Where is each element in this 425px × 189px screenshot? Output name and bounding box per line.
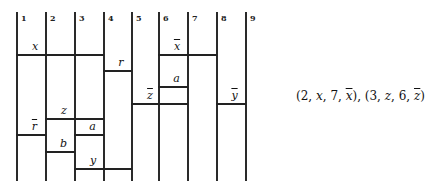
column-number: 9	[250, 13, 256, 23]
segment-a	[74, 134, 104, 136]
column-line-2	[45, 12, 47, 181]
segment-label: y	[78, 155, 108, 166]
column-number: 3	[79, 13, 85, 23]
segment-label: y	[220, 90, 249, 101]
segment-r-bar	[16, 134, 46, 136]
column-number: 4	[108, 13, 114, 23]
tuple2-var: z	[385, 89, 391, 103]
segment-label: a	[78, 121, 107, 132]
segment-y	[74, 168, 132, 170]
column-number: 8	[221, 13, 227, 23]
column-line-1	[16, 12, 18, 181]
tuple1-end: 7	[330, 89, 338, 103]
column-number: 6	[163, 13, 169, 23]
segment-x-bar	[158, 54, 217, 56]
segment-label: z	[135, 90, 165, 101]
segment-z-bar	[131, 103, 188, 105]
column-number: 1	[21, 13, 27, 23]
column-number: 2	[50, 13, 56, 23]
segment-label: z	[49, 105, 79, 116]
tuple2-start: 3	[369, 89, 377, 103]
column-line-7	[187, 12, 189, 181]
segment-label: r	[20, 121, 49, 132]
segment-x	[16, 54, 104, 56]
column-line-8	[216, 12, 218, 181]
column-number: 5	[136, 13, 142, 23]
tuple2-var-bar: z	[414, 89, 420, 103]
segment-label: x	[162, 41, 192, 52]
tuple1-start: 2	[301, 89, 309, 103]
tuple2-end: 6	[399, 89, 407, 103]
column-number: 7	[192, 13, 198, 23]
tuple1-var-bar: x	[346, 89, 353, 103]
segment-label: a	[162, 73, 191, 84]
tuple1-var: x	[316, 89, 323, 103]
segment-label: r	[107, 57, 135, 68]
segment-y-bar	[216, 103, 246, 105]
segment-a	[158, 86, 188, 88]
segment-b	[45, 151, 75, 153]
segment-label: x	[20, 41, 50, 52]
column-line-3	[74, 12, 76, 181]
tuple-formula: (2, x, 7, x), (3, z, 6, z)	[296, 89, 425, 103]
segment-label: b	[49, 138, 78, 149]
segment-r	[103, 70, 132, 72]
column-line-5	[131, 12, 133, 181]
